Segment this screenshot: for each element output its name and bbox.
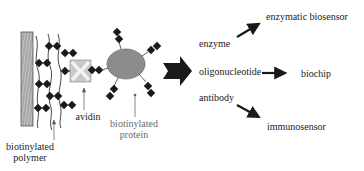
- label-polymer-line1: biotinylated: [6, 141, 54, 152]
- source-enzyme: enzyme: [199, 38, 231, 49]
- source-oligonucleotide: oligonucleotide: [199, 66, 262, 77]
- avidin-shape: [70, 60, 91, 82]
- label-protein-line2: protein: [120, 129, 148, 140]
- block-arrow-icon: [163, 56, 192, 86]
- label-polymer-line2: polymer: [13, 152, 47, 163]
- target-enzymatic-biosensor: enzymatic biosensor: [266, 11, 349, 22]
- label-avidin: avidin: [76, 111, 101, 122]
- source-antibody: antibody: [199, 92, 234, 103]
- label-protein-line1: biotinylated: [110, 118, 158, 129]
- target-biochip: biochip: [301, 68, 331, 79]
- target-immunosensor: immunosensor: [267, 121, 327, 132]
- diagram-canvas: biotinylated polymer avidin biotinylated…: [0, 0, 364, 171]
- substrate-surface: [21, 32, 33, 126]
